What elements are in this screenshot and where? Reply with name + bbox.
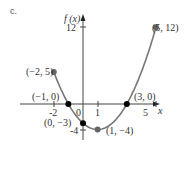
point-label: (5, 12) xyxy=(152,22,179,34)
function-graph: f (x) x 12 -4 -2 0 1 5 (−2, 5) (−1, 0) (… xyxy=(0,0,185,173)
data-point xyxy=(65,101,71,107)
y-axis-arrow-icon xyxy=(81,14,86,21)
data-point xyxy=(95,127,101,133)
x-tick-label: 0 xyxy=(76,107,81,118)
point-label: (1, −4) xyxy=(106,125,133,137)
data-point xyxy=(124,101,130,107)
point-label: (0, −3) xyxy=(44,117,71,129)
y-tick-label: 12 xyxy=(66,22,76,33)
function-curve xyxy=(54,27,156,129)
point-label: (−1, 0) xyxy=(32,91,59,103)
x-tick-label: 5 xyxy=(143,107,148,118)
data-point xyxy=(80,120,86,126)
point-label: (−2, 5) xyxy=(26,66,53,78)
x-tick-label: 1 xyxy=(95,107,100,118)
x-axis-label: x xyxy=(157,105,163,116)
point-label: (3, 0) xyxy=(134,91,156,103)
